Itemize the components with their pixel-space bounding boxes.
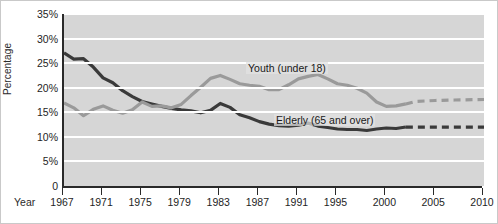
x-tick-label: 2010	[470, 196, 493, 208]
series-annotation-youth: Youth (under 18)	[246, 62, 328, 74]
gridline	[64, 160, 484, 162]
x-tick-mark	[257, 188, 258, 195]
y-tick-label: 20%	[22, 82, 58, 94]
x-tick-label: 2005	[421, 196, 444, 208]
plot-inner	[64, 14, 484, 186]
plot-area	[62, 14, 484, 186]
y-axis-zero-label: 0	[22, 180, 58, 192]
series-line-projection	[406, 100, 484, 104]
series-annotation-elderly: Elderly (65 and over)	[274, 114, 375, 126]
gridline	[64, 111, 484, 113]
x-tick-label: 1991	[285, 196, 308, 208]
x-tick-label: 1987	[246, 196, 269, 208]
poverty-rate-line-chart: Percentage 5%10%15%20%25%30%35% 0 196719…	[0, 0, 498, 224]
x-tick-label: 1971	[89, 196, 112, 208]
x-tick-label: 2000	[373, 196, 396, 208]
x-tick-mark	[296, 188, 297, 195]
x-axis-title: Year	[14, 196, 35, 208]
x-tick-mark	[335, 188, 336, 195]
gridline	[64, 14, 484, 15]
y-tick-label: 5%	[22, 155, 58, 167]
x-tick-mark	[384, 188, 385, 195]
x-tick-label: 1995	[324, 196, 347, 208]
x-tick-label: 1979	[168, 196, 191, 208]
y-tick-label: 15%	[22, 106, 58, 118]
x-axis-tick-labels: 1967197119751979198319871991199520002005…	[62, 196, 482, 212]
y-tick-label: 35%	[22, 8, 58, 20]
y-tick-label: 10%	[22, 131, 58, 143]
y-tick-label: 30%	[22, 33, 58, 45]
x-tick-label: 1967	[50, 196, 73, 208]
x-tick-mark	[140, 188, 141, 195]
y-tick-label: 25%	[22, 57, 58, 69]
gridline	[64, 87, 484, 89]
x-tick-mark	[482, 188, 483, 195]
x-axis-line	[62, 186, 482, 188]
x-tick-label: 1983	[207, 196, 230, 208]
x-tick-mark	[218, 188, 219, 195]
gridline	[64, 38, 484, 40]
x-tick-label: 1975	[128, 196, 151, 208]
x-tick-mark	[101, 188, 102, 195]
gridline	[64, 136, 484, 138]
x-tick-mark	[179, 188, 180, 195]
x-tick-mark	[62, 188, 63, 195]
y-axis-title: Percentage	[2, 24, 16, 114]
x-tick-mark	[433, 188, 434, 195]
y-axis-tick-labels: 5%10%15%20%25%30%35%	[22, 14, 58, 186]
